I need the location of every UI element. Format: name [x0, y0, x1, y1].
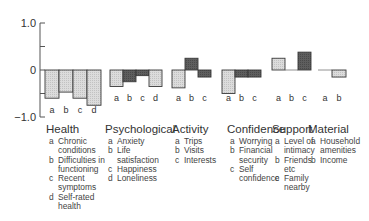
bar-label: c — [202, 93, 207, 103]
bar-label: c — [252, 93, 257, 103]
bar — [45, 70, 59, 98]
legend-item-label: Loneliness — [117, 174, 157, 183]
legend-item-label: Self-rated health — [58, 193, 94, 212]
bar-group-psychological: abcd — [110, 70, 162, 103]
legend-item-key: b — [230, 146, 239, 165]
bar — [272, 58, 285, 70]
y-axis: 1.00−1.0 — [14, 17, 45, 123]
y-tick-label: −1.0 — [14, 111, 36, 123]
bar-label: c — [78, 105, 83, 115]
legend-item-key: d — [49, 193, 58, 212]
bar — [185, 58, 198, 70]
bar-label: d — [91, 105, 96, 115]
legend-item-label: Household amenities — [320, 137, 360, 156]
bar-label: b — [336, 93, 341, 103]
bar-label: c — [140, 93, 145, 103]
bar-label: b — [239, 93, 244, 103]
legend-item: aHousehold amenities — [311, 137, 360, 156]
bar — [110, 70, 123, 86]
bar — [332, 70, 346, 77]
legend-item-label: Family nearby — [284, 174, 310, 193]
bar — [198, 70, 211, 77]
bar-label: a — [49, 105, 54, 115]
legend-item: cRecent symptoms — [49, 174, 105, 193]
bar-label: b — [127, 93, 132, 103]
bar — [123, 70, 136, 82]
legend-group-material: MaterialaHousehold amenitiesbIncome — [308, 123, 360, 165]
legend-item-key: a — [311, 137, 320, 156]
bar — [59, 70, 73, 92]
bar-label: b — [289, 93, 294, 103]
legend-item-key: b — [311, 156, 320, 165]
legend-item-label: Difficulties in functioning — [58, 156, 105, 175]
legend-item-label: Income — [320, 156, 347, 165]
bar-label: a — [322, 93, 327, 103]
legend-item-label: Financial security — [239, 146, 273, 165]
legend-item-key: c — [49, 174, 58, 193]
bar-label: a — [276, 93, 281, 103]
legend-item: bLife satisfaction — [108, 146, 175, 165]
bar-group-confidence: abc — [222, 70, 261, 103]
legend-item: dSelf-rated health — [49, 193, 105, 212]
bar-label: b — [189, 93, 194, 103]
legend-item-key: d — [108, 174, 117, 183]
bar-label: c — [302, 93, 307, 103]
legend-item: dLoneliness — [108, 174, 175, 183]
legend-item: bDifficulties in functioning — [49, 156, 105, 175]
bar-group-health: abcd — [45, 70, 101, 115]
bar — [87, 70, 101, 105]
legend-item: cInterests — [175, 156, 216, 165]
bar — [222, 70, 235, 94]
group-title: Material — [308, 123, 360, 135]
legend-item-key: c — [275, 174, 284, 193]
legend-item-key: c — [175, 156, 184, 165]
legend-item-key: b — [275, 156, 284, 175]
bar-group-material: ab — [318, 70, 346, 103]
bar-label: a — [114, 93, 119, 103]
legend-item-label: Chronic conditions — [58, 137, 96, 156]
y-tick-label: 1.0 — [21, 17, 36, 29]
legend-group-psychological: PsychologicalaAnxietybLife satisfactionc… — [105, 123, 175, 183]
group-title: Activity — [172, 123, 216, 135]
legend-item-label: Interests — [184, 156, 216, 165]
bar-group-activity: abc — [172, 58, 211, 103]
legend-item-label: Recent symptoms — [58, 174, 96, 193]
bar-label: a — [226, 93, 231, 103]
legend-item-label: Life satisfaction — [117, 146, 159, 165]
bar — [298, 52, 311, 70]
legend-item-key: a — [49, 137, 58, 156]
bar — [136, 70, 149, 76]
bars: abcdabcdabcabcabcab — [45, 52, 346, 115]
bar-label: a — [176, 93, 181, 103]
legend-item-key: b — [49, 156, 58, 175]
bar — [248, 70, 261, 77]
group-title: Psychological — [105, 123, 175, 135]
bar-label: d — [153, 93, 158, 103]
legend-item: aChronic conditions — [49, 137, 105, 156]
legend-group-health: HealthaChronic conditionsbDifficulties i… — [46, 123, 105, 211]
legend-item: bIncome — [311, 156, 360, 165]
group-title: Health — [46, 123, 105, 135]
legend-item-key: b — [108, 146, 117, 165]
bar — [149, 70, 162, 86]
bar — [73, 70, 87, 98]
legend-item-key: a — [275, 137, 284, 156]
legend-group-activity: ActivityaTripsbVisitscInterests — [172, 123, 216, 165]
legend-item: cFamily nearby — [275, 174, 315, 193]
bar — [172, 70, 185, 88]
bar — [235, 70, 248, 77]
legend-item-key: c — [230, 165, 239, 184]
bar-label: b — [63, 105, 68, 115]
bar-group-support: abc — [272, 52, 311, 103]
y-tick-label: 0 — [30, 64, 36, 76]
